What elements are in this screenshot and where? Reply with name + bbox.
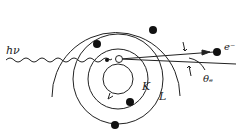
angle-label: θₑ: [203, 73, 213, 84]
l-shell-label: L: [158, 90, 166, 103]
angle-arrow-bottom-icon: [187, 66, 191, 76]
l-shell-orbit: [73, 34, 163, 124]
electron-dot: [93, 40, 101, 48]
ejected-electron-dot: [213, 48, 221, 56]
reference-line: [120, 59, 236, 64]
photon-label: hν: [6, 44, 20, 57]
electron-dot: [126, 98, 134, 106]
photoelectric-effect-diagram: hν e⁻ θₑ K L: [0, 0, 244, 137]
trajectory-arrowhead-icon: [202, 50, 210, 55]
electron-dot: [149, 26, 157, 34]
electron-label: e⁻: [224, 41, 235, 52]
inner-orbit: [103, 64, 133, 94]
angle-leader: [189, 58, 205, 70]
electron-dot: [111, 121, 119, 129]
photon-tip: [105, 58, 109, 62]
angle-arrow-top-icon: [183, 42, 187, 51]
k-shell-label: K: [141, 80, 151, 93]
orbit-arrow-icon: [108, 93, 113, 99]
vacancy-hole: [116, 56, 123, 63]
